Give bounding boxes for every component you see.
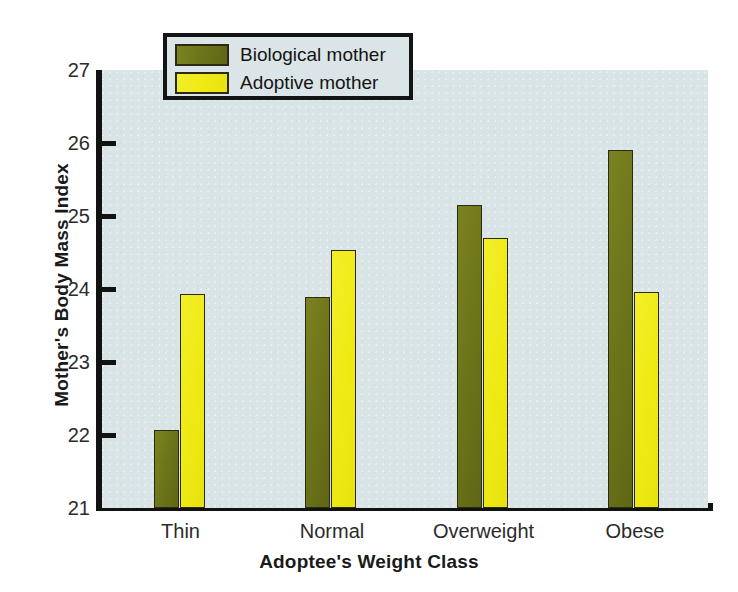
bar-thin-biological bbox=[154, 430, 179, 508]
bar-obese-adoptive bbox=[634, 292, 659, 508]
y-axis-tick-label: 23 bbox=[34, 352, 90, 372]
x-axis-tick-label: Thin bbox=[121, 520, 241, 543]
legend-label-adoptive-mother: Adoptive mother bbox=[240, 72, 378, 94]
x-axis-tick-label: Overweight bbox=[424, 520, 544, 543]
y-axis-tick-label: 27 bbox=[34, 60, 90, 80]
bar-obese-biological bbox=[608, 150, 633, 508]
y-axis-tick-mark bbox=[96, 360, 116, 365]
y-axis-tick-mark bbox=[96, 433, 116, 438]
y-axis-tick-mark bbox=[96, 287, 116, 292]
legend-entry: Biological mother bbox=[175, 41, 403, 69]
x-axis-title: Adoptee's Weight Class bbox=[0, 551, 738, 573]
y-axis-tick-mark bbox=[96, 141, 116, 146]
y-axis-tick-label: 24 bbox=[34, 279, 90, 299]
x-axis-tick-label: Obese bbox=[575, 520, 695, 543]
bar-normal-adoptive bbox=[331, 250, 356, 508]
legend-label-biological-mother: Biological mother bbox=[240, 44, 386, 66]
x-axis-tick-label: Normal bbox=[272, 520, 392, 543]
bar-overweight-biological bbox=[457, 205, 482, 508]
y-axis-tick-mark bbox=[96, 214, 116, 219]
chart-legend: Biological mother Adoptive mother bbox=[163, 33, 413, 100]
y-axis-tick-label: 26 bbox=[34, 133, 90, 153]
y-axis-tick-label: 22 bbox=[34, 425, 90, 445]
y-axis-tick-label: 21 bbox=[34, 498, 90, 518]
legend-swatch-adoptive-mother bbox=[175, 72, 229, 94]
y-axis-tick-labels: 21222324252627 bbox=[34, 0, 90, 592]
bar-normal-biological bbox=[305, 297, 330, 508]
plot-area bbox=[102, 70, 708, 508]
y-axis-tick-label: 25 bbox=[34, 206, 90, 226]
legend-entry: Adoptive mother bbox=[175, 69, 403, 97]
bar-thin-adoptive bbox=[180, 294, 205, 508]
legend-swatch-biological-mother bbox=[175, 44, 229, 66]
bar-overweight-adoptive bbox=[483, 238, 508, 508]
chart-figure: Mother's Body Mass Index 21222324252627 … bbox=[0, 0, 738, 592]
